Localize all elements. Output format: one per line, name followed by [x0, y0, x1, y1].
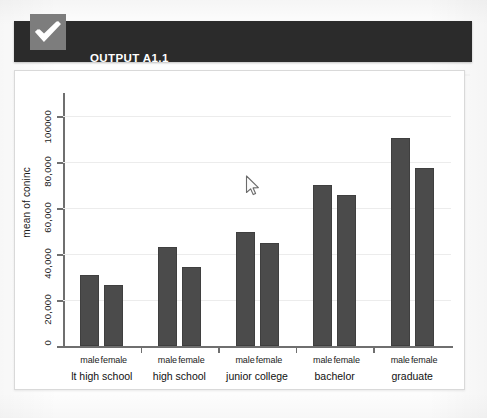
bar-junior-college-male — [236, 232, 255, 346]
x-group-label: bachelor — [296, 370, 374, 382]
y-tick-label: 100000 — [42, 110, 53, 144]
y-tick — [57, 346, 63, 348]
bar-graduate-male — [391, 138, 410, 346]
x-sublabel-female: female — [173, 355, 210, 365]
plot-area — [63, 85, 451, 346]
y-tick-label: 0 — [42, 340, 53, 346]
x-group-separator — [373, 346, 375, 353]
bar-bachelor-male — [313, 185, 332, 346]
x-sublabel-female: female — [95, 355, 132, 365]
checkbox-tile — [30, 14, 66, 50]
page-title: OUTPUT A1.1 — [90, 51, 169, 65]
x-group-separator — [296, 346, 298, 353]
x-group-separator — [218, 346, 220, 353]
y-tick-label: 60,000 — [42, 202, 53, 233]
y-axis-title: mean of coninc — [21, 167, 32, 238]
bar-lt-high-school-female — [104, 285, 123, 346]
x-group-label: junior college — [218, 370, 296, 382]
x-sublabel-female: female — [328, 355, 365, 365]
x-group-label: graduate — [373, 370, 451, 382]
x-group-separator — [141, 346, 143, 353]
y-tick-label: 20,000 — [42, 294, 53, 325]
bar-high-school-female — [182, 267, 201, 346]
output-header-band: OUTPUT A1.1 — [14, 21, 472, 62]
bar-high-school-male — [158, 247, 177, 346]
bar-graduate-female — [415, 168, 434, 346]
x-sublabel-female: female — [406, 355, 443, 365]
bar-junior-college-female — [260, 243, 279, 347]
check-icon — [35, 21, 61, 43]
bar-lt-high-school-male — [80, 275, 99, 346]
x-group-label: lt high school — [63, 370, 141, 382]
x-axis-line — [63, 346, 453, 348]
y-tick-label: 80,000 — [42, 156, 53, 187]
scanned-page: OUTPUT A1.1 mean of coninc 020,00040,000… — [0, 0, 487, 418]
x-sublabel-female: female — [251, 355, 288, 365]
chart-panel: mean of coninc 020,00040,00060,00080,000… — [14, 70, 465, 390]
bar-bachelor-female — [337, 195, 356, 346]
y-tick-label: 40,000 — [42, 248, 53, 279]
x-group-label: high school — [141, 370, 219, 382]
